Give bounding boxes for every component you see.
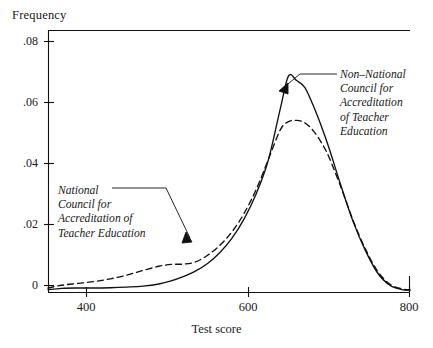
- annotation-non-ncate-line-5: Education: [340, 125, 406, 139]
- y-tick-label-0: 0: [4, 278, 38, 293]
- x-tick-label-800: 800: [386, 300, 432, 315]
- annotation-non-ncate-line-3: Accreditation: [340, 96, 406, 110]
- annotation-ncate-line-1: National: [58, 184, 145, 198]
- x-tick-label-600: 600: [225, 300, 271, 315]
- y-tick-label-04: .04: [4, 156, 38, 171]
- annotation-ncate-line-3: Accreditation of: [58, 212, 145, 226]
- density-plot: [0, 0, 433, 348]
- leader-line-non-ncate: [283, 74, 337, 88]
- annotation-non-ncate-line-2: Council for: [340, 82, 406, 96]
- arrowhead-ncate: [182, 232, 192, 243]
- annotation-ncate: National Council for Accreditation of Te…: [58, 184, 145, 241]
- x-axis-title: Test score: [0, 322, 433, 337]
- annotation-ncate-line-4: Teacher Education: [58, 227, 145, 241]
- annotation-non-ncate: Non–National Council for Accreditation o…: [340, 68, 406, 139]
- x-tick-label-400: 400: [63, 300, 109, 315]
- annotation-non-ncate-line-4: of Teacher: [340, 111, 406, 125]
- y-tick-label-08: .08: [4, 34, 38, 49]
- annotation-ncate-line-2: Council for: [58, 198, 145, 212]
- arrowhead-non-ncate: [279, 83, 288, 94]
- y-tick-label-02: .02: [4, 217, 38, 232]
- annotation-leaders: [112, 74, 337, 243]
- chart-page: Frequency: [0, 0, 433, 348]
- annotation-non-ncate-line-1: Non–National: [340, 68, 406, 82]
- y-tick-label-06: .06: [4, 95, 38, 110]
